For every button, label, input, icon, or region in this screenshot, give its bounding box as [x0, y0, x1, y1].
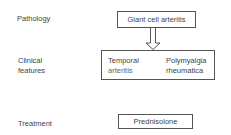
- down-arrow-icon: [143, 28, 163, 51]
- row-label-pathology: Pathology: [17, 14, 50, 23]
- clinical-feature-temporal-line2: arteritis: [108, 66, 133, 75]
- clinical-features-box: Temporal arteritis Polymyalgia rheumatic…: [101, 50, 215, 80]
- pathology-text: Giant cell arteritis: [118, 15, 195, 24]
- treatment-box: Prednisolone: [118, 114, 193, 129]
- clinical-feature-polymyalgia-line1: Polymyalgia: [166, 56, 206, 65]
- row-label-treatment: Treatment: [18, 119, 52, 128]
- clinical-feature-polymyalgia-line2: rheumatica: [166, 66, 203, 75]
- clinical-feature-temporal-line1: Temporal: [108, 56, 139, 65]
- row-label-clinical-features-line2: features: [18, 66, 45, 75]
- pathology-box: Giant cell arteritis: [117, 11, 196, 28]
- treatment-text: Prednisolone: [119, 117, 192, 126]
- row-label-clinical-features-line1: Clinical: [18, 56, 42, 65]
